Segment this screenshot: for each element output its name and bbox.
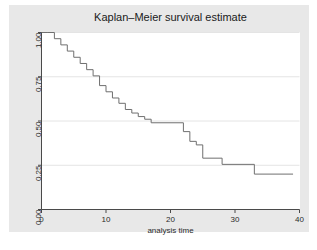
x-axis-title: analysis time xyxy=(41,226,300,236)
kaplan-meier-figure: Kaplan–Meier survival estimate 0.000.250… xyxy=(0,0,317,250)
x-tick-label: 10 xyxy=(94,215,118,224)
x-tick-label: 40 xyxy=(288,215,312,224)
x-tick-label: 20 xyxy=(159,215,183,224)
x-axis-tick-labels: 010203040 xyxy=(0,0,317,250)
x-tick-label: 0 xyxy=(30,215,54,224)
x-tick-label: 30 xyxy=(223,215,247,224)
